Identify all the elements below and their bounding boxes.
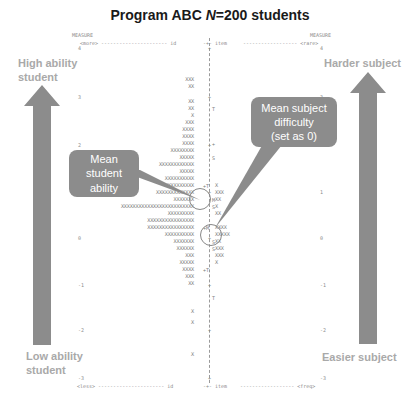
callout-line: Mean (90, 152, 118, 166)
callout-line: (set as 0) (271, 129, 317, 143)
mean-student-ability-callout: Mean student ability (69, 150, 139, 197)
up-arrow-left-icon (24, 85, 60, 345)
callout-line: ability (90, 181, 118, 195)
low-ability-label: Low ability student (26, 350, 96, 378)
mean-subject-difficulty-callout: Mean subject difficulty (set as 0) (251, 97, 337, 147)
high-ability-label: High ability student (18, 57, 98, 85)
mean-item-circle (200, 224, 222, 246)
harder-subject-label: Harder subject (324, 57, 420, 71)
subject-callout-tail (215, 135, 290, 228)
easier-subject-label: Easier subject (322, 351, 420, 365)
callout-line: difficulty (274, 115, 314, 129)
up-arrow-right-icon (350, 72, 386, 344)
callout-line: Mean subject (261, 101, 326, 115)
mean-student-circle (189, 188, 211, 210)
callout-line: student (86, 166, 122, 180)
